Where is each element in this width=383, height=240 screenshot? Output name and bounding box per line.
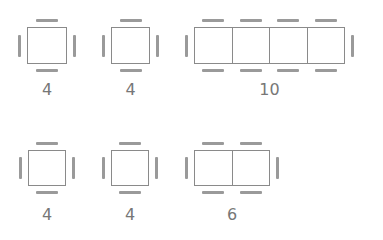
chair-right [351,35,354,57]
table-t2[interactable] [111,27,150,64]
chair-top [119,142,141,145]
chair-left [185,157,188,179]
chair-right [156,35,159,57]
table-cell [233,28,271,63]
table-cell [195,151,233,185]
chair-left [18,35,21,57]
table-t3[interactable] [194,27,345,64]
chair-left [102,157,105,179]
seat-count-label: 4 [17,205,77,224]
chair-top [277,19,299,22]
chair-bottom [315,69,337,72]
seat-count-label: 4 [101,80,161,99]
chair-top [202,19,224,22]
chair-top [120,19,142,22]
chair-left [102,35,105,57]
table-cell [112,151,148,185]
table-cell [233,151,270,185]
chair-left [185,35,188,57]
chair-top [202,142,224,145]
seat-count-label: 6 [202,205,262,224]
chair-top [36,142,58,145]
chair-left [19,157,22,179]
chair-top [315,19,337,22]
table-t1[interactable] [27,27,67,64]
table-cell [270,28,308,63]
chair-right [73,35,76,57]
table-t5[interactable] [111,150,149,186]
chair-bottom [240,69,262,72]
table-t4[interactable] [28,150,66,186]
chair-top [36,19,58,22]
chair-top [240,19,262,22]
seat-count-label: 4 [100,205,160,224]
chair-right [72,157,75,179]
chair-right [155,157,158,179]
table-t6[interactable] [194,150,270,186]
chair-bottom [36,69,58,72]
chair-top [240,142,262,145]
chair-bottom [36,191,58,194]
table-cell [195,28,233,63]
chair-bottom [202,191,224,194]
chair-bottom [240,191,262,194]
seat-count-label: 4 [17,80,77,99]
chair-bottom [119,191,141,194]
table-cell [28,28,66,63]
table-cell [29,151,65,185]
chair-bottom [277,69,299,72]
chair-right [276,157,279,179]
seat-count-label: 10 [240,80,300,99]
chair-bottom [202,69,224,72]
table-cell [308,28,345,63]
chair-bottom [120,69,142,72]
table-cell [112,28,149,63]
